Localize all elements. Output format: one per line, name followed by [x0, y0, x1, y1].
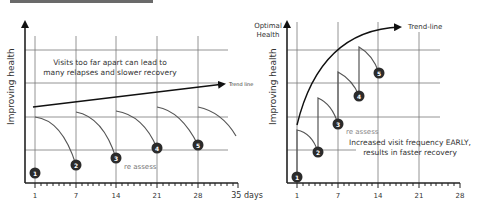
- optimal-health-label-1: Optimal: [254, 22, 282, 30]
- x-tick-labels-right: 1 7 14 21 28: [295, 192, 465, 200]
- x-tick-label-days: 35 days: [231, 191, 263, 200]
- svg-text:4: 4: [155, 145, 159, 152]
- x-tick-label: 14: [374, 192, 383, 200]
- reassess-label-right: re assess: [346, 128, 379, 136]
- visit-marker: 1: [30, 168, 41, 179]
- x-tick-label: 1: [295, 192, 299, 200]
- visit-marker: 5: [374, 68, 385, 79]
- optimal-health-label-2: Health: [257, 31, 280, 39]
- annotation-line-2-right: results in faster recovery: [363, 148, 457, 157]
- visit-markers-left: 1 2 3 4 5: [30, 140, 204, 179]
- annotation-line-1-left: Visits too far apart can lead to: [53, 58, 167, 67]
- visit-marker: 2: [313, 147, 324, 158]
- svg-text:4: 4: [357, 93, 361, 100]
- svg-text:3: 3: [114, 155, 118, 162]
- y-axis-label-left: Improving health: [6, 48, 16, 125]
- annotation-line-1-right: Increased visit frequency EARLY,: [349, 138, 471, 147]
- svg-text:5: 5: [196, 142, 200, 149]
- chart-right: 1 7 14 21 28 Improving health Optimal He…: [254, 22, 471, 200]
- x-tick-label: 1: [33, 192, 37, 200]
- visit-marker: 4: [354, 91, 365, 102]
- reassess-label-left: re assess: [124, 163, 157, 171]
- relapse-curves-left: [35, 107, 236, 165]
- x-tick-label: 21: [153, 192, 162, 200]
- svg-text:1: 1: [33, 170, 37, 177]
- svg-text:5: 5: [377, 70, 381, 77]
- visit-marker: 2: [71, 160, 82, 171]
- svg-text:2: 2: [316, 149, 320, 156]
- visit-marker: 3: [111, 153, 122, 164]
- trend-label-left: Trend line: [228, 81, 253, 87]
- x-tick-label: 14: [112, 192, 121, 200]
- x-tick-label: 28: [456, 192, 465, 200]
- charts-canvas: 1 7 14 21 28 35 days Improving health Vi…: [0, 0, 477, 213]
- svg-text:2: 2: [74, 162, 78, 169]
- visit-marker: 5: [193, 140, 204, 151]
- x-tick-label: 21: [415, 192, 424, 200]
- grid-right: [287, 22, 440, 183]
- x-tick-label: 28: [194, 192, 203, 200]
- visit-marker: 4: [152, 143, 163, 154]
- trend-arrow-left: [33, 84, 224, 107]
- svg-text:1: 1: [295, 174, 299, 181]
- svg-text:3: 3: [336, 121, 340, 128]
- x-tick-label: 7: [74, 192, 78, 200]
- x-tick-labels-left: 1 7 14 21 28 35 days: [33, 191, 263, 200]
- visit-marker: 3: [333, 119, 344, 130]
- x-tick-label: 7: [336, 192, 340, 200]
- chart-left: 1 7 14 21 28 35 days Improving health Vi…: [6, 22, 263, 200]
- trend-curve-right: [297, 27, 400, 125]
- y-axis-label-right: Improving health: [268, 48, 278, 125]
- visit-marker: 1: [292, 172, 303, 183]
- trend-label-right: Trend-line: [407, 23, 442, 31]
- annotation-line-2-left: many relapses and slower recovery: [43, 68, 177, 77]
